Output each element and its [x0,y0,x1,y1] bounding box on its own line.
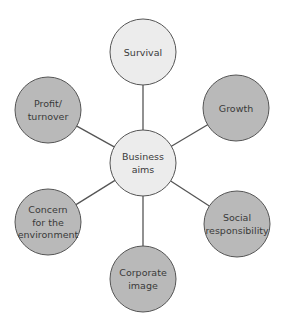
node-label: image [128,280,158,291]
node-business-aims: Businessaims [110,130,176,196]
node-label: Social [223,212,251,223]
node-label: turnover [28,111,69,122]
node-survival: Survival [110,19,176,85]
node-label: responsibility [205,225,269,236]
connector-growth [171,125,207,146]
node-label: Growth [219,103,253,114]
connector-concern-for-the-environment [76,180,115,204]
connector-social-responsibility [171,181,210,206]
nodes: BusinessaimsSurvivalGrowthSocialresponsi… [15,19,270,312]
node-social-responsibility: Socialresponsibility [204,191,270,257]
node-label: for the [32,217,64,228]
node-growth: Growth [203,75,269,141]
node-label: Survival [124,47,162,58]
node-label: environment [18,229,79,240]
node-concern-for-the-environment: Concernfor theenvironment [15,189,81,255]
node-label: Profit/ [34,98,63,109]
node-profit-turnover: Profit/turnover [15,77,81,143]
node-label: aims [132,164,155,175]
node-label: Business [122,151,164,162]
node-label: Corporate [119,267,167,278]
node-corporate-image: Corporateimage [110,246,176,312]
node-label: Concern [28,204,67,215]
connector-profit-turnover [77,126,114,147]
business-aims-diagram: BusinessaimsSurvivalGrowthSocialresponsi… [0,0,287,329]
